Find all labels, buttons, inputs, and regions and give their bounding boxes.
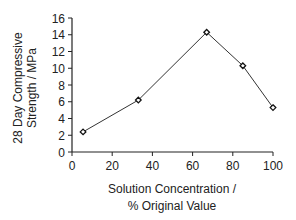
y-tick-label: 4 bbox=[58, 112, 65, 126]
y-tick-label: 0 bbox=[58, 146, 65, 160]
data-point-diamond-marker bbox=[80, 129, 86, 135]
x-axis-title-line-2: % Original Value bbox=[128, 199, 217, 213]
x-axis-title-line-1: Solution Concentration / bbox=[108, 182, 237, 196]
y-tick-label: 10 bbox=[52, 62, 66, 76]
x-tick-label: 0 bbox=[69, 159, 76, 173]
x-axis-title: Solution Concentration / % Original Valu… bbox=[108, 182, 237, 213]
data-series bbox=[80, 29, 276, 134]
y-tick-label: 2 bbox=[58, 129, 65, 143]
x-tick-label: 40 bbox=[146, 159, 160, 173]
y-axis-title: 28 Day Compressive Strength / MPa bbox=[11, 32, 39, 144]
y-tick-label: 16 bbox=[52, 12, 66, 26]
x-axis-ticks: 020406080100 bbox=[69, 152, 284, 173]
series-line bbox=[83, 32, 273, 132]
x-tick-label: 100 bbox=[263, 159, 283, 173]
y-tick-label: 8 bbox=[58, 79, 65, 93]
y-tick-label: 14 bbox=[52, 28, 66, 42]
y-tick-label: 12 bbox=[52, 45, 66, 59]
y-tick-label: 6 bbox=[58, 95, 65, 109]
line-chart: 28 Day Compressive Strength / MPa Soluti… bbox=[0, 0, 296, 220]
y-axis-ticks: 0246810121416 bbox=[52, 12, 72, 160]
x-tick-label: 60 bbox=[186, 159, 200, 173]
chart-container: 28 Day Compressive Strength / MPa Soluti… bbox=[0, 0, 296, 220]
x-tick-label: 80 bbox=[226, 159, 240, 173]
y-axis-title-line-1: 28 Day Compressive bbox=[11, 32, 25, 144]
axes bbox=[72, 18, 273, 152]
x-tick-label: 20 bbox=[106, 159, 120, 173]
y-axis-title-line-2: Strength / MPa bbox=[25, 48, 39, 128]
